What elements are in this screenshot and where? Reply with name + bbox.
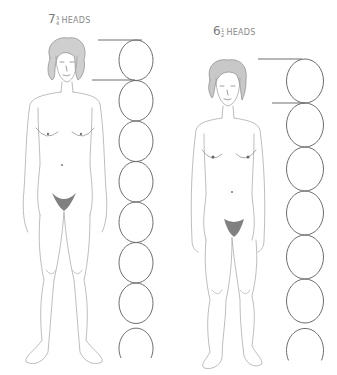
right-head-unit-oval [287, 147, 324, 191]
left-head-unit-oval [119, 162, 153, 203]
left-head-unit-oval [119, 243, 153, 284]
left-figure-hair [48, 38, 85, 80]
proportion-drawing [0, 0, 337, 375]
left-head-scale [92, 40, 153, 358]
right-head-scale [258, 59, 324, 360]
right-head-unit-oval [287, 103, 324, 147]
left-head-unit-oval [119, 121, 153, 162]
left-figure [23, 38, 107, 364]
right-head-unit-oval [287, 191, 324, 235]
left-head-unit-oval [119, 283, 153, 324]
left-figure-torso [23, 92, 107, 232]
left-head-unit-oval [119, 202, 153, 243]
right-partial-head-unit-arc [287, 328, 324, 360]
right-figure-pubic-shading [224, 219, 244, 237]
right-figure [191, 60, 265, 369]
left-head-unit-oval [119, 40, 153, 81]
left-figure-pubic-shading [52, 193, 76, 211]
left-figure-legs [26, 212, 102, 364]
left-partial-head-unit-arc [119, 328, 153, 358]
right-figure-legs [203, 238, 262, 369]
right-head-unit-oval [287, 279, 324, 323]
right-head-unit-oval [287, 235, 324, 279]
right-figure-face [216, 78, 240, 106]
right-head-unit-oval [287, 59, 324, 103]
left-head-unit-oval [119, 81, 153, 122]
